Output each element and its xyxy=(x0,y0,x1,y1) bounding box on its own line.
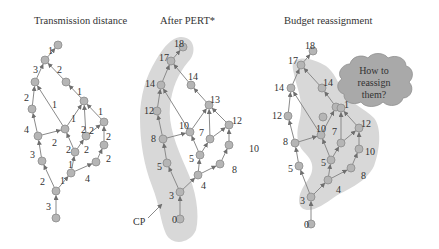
graph-node xyxy=(196,151,204,159)
graph-node xyxy=(284,112,292,120)
edge-weight-label: 8 xyxy=(151,133,156,144)
edge-weight-label: 14 xyxy=(274,82,284,93)
edge-weight-label: 2 xyxy=(89,125,94,136)
edge-weight-label: 4 xyxy=(336,184,341,195)
graph-node xyxy=(38,157,46,165)
edge-weight-label: 4 xyxy=(24,124,29,135)
graph-node xyxy=(52,187,60,195)
graph-node xyxy=(100,141,108,149)
edge-weight-label: 17 xyxy=(159,52,169,63)
edge-weight-label: 10 xyxy=(316,123,326,134)
edge-weight-label: 5 xyxy=(288,163,293,174)
graph-node xyxy=(216,160,224,168)
graph-node xyxy=(80,97,88,105)
edge-weight-label: 5 xyxy=(321,157,326,168)
graph-node xyxy=(187,81,195,89)
edge-weight-label: 12 xyxy=(272,110,282,121)
edge-weight-label: 3 xyxy=(169,190,174,201)
edge-weight-label: 5 xyxy=(157,161,162,172)
graph-node xyxy=(92,158,100,166)
edge-weight-label: 17 xyxy=(288,55,298,66)
graph-node xyxy=(54,41,62,49)
cloud-line-1: How to xyxy=(359,65,389,76)
edge-arrow xyxy=(37,86,62,126)
edge-arrow xyxy=(44,165,54,187)
graph-node xyxy=(225,141,233,149)
graph-node xyxy=(295,162,303,170)
edge-weight-label: 14 xyxy=(145,78,155,89)
edge-arrow xyxy=(212,108,226,122)
edge-arrow xyxy=(288,92,290,112)
edge-weight-label: 14 xyxy=(188,71,198,82)
critical-path-shade xyxy=(140,37,198,242)
edge-weight-label: 18 xyxy=(305,40,315,51)
cloud-line-2: reassign xyxy=(358,77,391,88)
graph-node xyxy=(153,107,161,115)
edge-weight-label: 1 xyxy=(77,86,82,97)
edge-weight-label: 7 xyxy=(199,127,204,138)
edge-arrow xyxy=(192,136,199,151)
edge-weight-label: 8 xyxy=(232,164,237,175)
edge-weight-label: 1 xyxy=(52,99,57,110)
edge-weight-label: 3 xyxy=(46,201,51,212)
edge-weight-label: 0 xyxy=(304,219,309,230)
panel-title-budget: Budget reassignment xyxy=(284,15,372,26)
edge-arrow xyxy=(202,143,207,152)
edge-arrow xyxy=(222,149,227,160)
edge-weight-label: 2 xyxy=(66,144,71,155)
diagram-canvas: Transmission distance After PERT* Budget… xyxy=(0,0,439,249)
edge-weight-label: 2 xyxy=(81,124,86,135)
cp-label: CP xyxy=(133,216,146,227)
edge-weight-label: 12 xyxy=(144,105,154,116)
edge-arrow xyxy=(209,109,210,135)
edge-arrow xyxy=(202,166,216,173)
graph-node xyxy=(176,215,184,223)
graph-node xyxy=(291,139,299,147)
graph-node xyxy=(71,148,79,156)
edge-weight-label: 18 xyxy=(174,38,184,49)
edge-arrow xyxy=(194,88,206,102)
edge-weight-label: 2 xyxy=(106,153,111,164)
graph-node xyxy=(307,193,315,201)
edge-arrow xyxy=(192,109,206,129)
graph-node xyxy=(67,169,75,177)
edge-weight-label: 4 xyxy=(201,180,206,191)
graph-node xyxy=(194,171,202,179)
edge-arrow xyxy=(33,113,37,132)
edge-weight-label: 2 xyxy=(40,176,45,187)
edge-weight-label: 8 xyxy=(361,170,366,181)
edge-weight-label: 2 xyxy=(84,144,89,155)
edge-arrow xyxy=(42,130,61,135)
panel-title-pert: After PERT* xyxy=(160,15,215,26)
graph-node xyxy=(159,135,167,143)
graph-node xyxy=(355,145,363,153)
graph-node xyxy=(100,118,108,126)
edge-arrow xyxy=(296,147,299,162)
edge-weight-label: 1 xyxy=(344,99,349,110)
edge-arrow xyxy=(32,86,34,105)
edge-weight-label: 2 xyxy=(106,131,111,142)
edge-weight-label: 3 xyxy=(33,64,38,75)
panel-title-transmission: Transmission distance xyxy=(34,15,128,26)
edge-weight-label: 1 xyxy=(71,113,76,124)
graph-node xyxy=(41,56,49,64)
graph-node xyxy=(52,214,60,222)
edge-arrow xyxy=(98,149,102,158)
edge-arrow xyxy=(213,128,225,137)
graph-node xyxy=(61,125,69,133)
edge-weight-label: 8 xyxy=(283,136,288,147)
edge-arrow xyxy=(77,140,83,149)
graph-node xyxy=(176,188,184,196)
graph-node xyxy=(287,84,295,92)
edge-arrow xyxy=(289,120,294,139)
graph-node xyxy=(34,132,42,140)
edge-weight-label: 7 xyxy=(332,126,337,137)
edge-weight-label: 1 xyxy=(48,45,53,56)
edge-weight-label: 4 xyxy=(85,173,90,184)
edge-weight-label: 1 xyxy=(98,106,103,117)
edge-arrow xyxy=(39,140,42,157)
graph-node xyxy=(347,164,355,172)
graph-node xyxy=(297,61,305,69)
edge-weight-label: 14 xyxy=(323,77,333,88)
edge-arrow xyxy=(75,164,92,172)
